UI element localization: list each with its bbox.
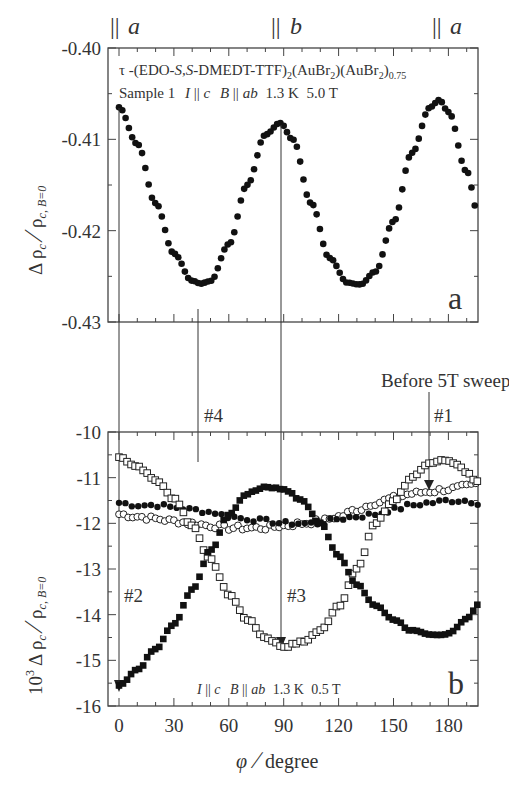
data-point	[165, 240, 172, 247]
data-point	[474, 502, 480, 508]
data-point	[462, 498, 468, 504]
data-point	[276, 520, 282, 526]
x-tick-label: 180	[434, 715, 463, 736]
data-point	[436, 497, 442, 503]
parallel-b-bars: ||	[271, 13, 281, 39]
data-point	[212, 542, 219, 549]
y-tick-label: -11	[76, 468, 101, 489]
data-point	[155, 203, 162, 210]
data-point	[192, 525, 199, 532]
data-point	[234, 213, 241, 220]
data-point	[346, 514, 352, 520]
data-point	[180, 602, 187, 609]
data-point	[145, 181, 152, 188]
data-point	[154, 504, 160, 510]
data-point	[257, 515, 263, 521]
data-point	[218, 511, 224, 517]
x-axis-label: φ∕degree	[236, 747, 319, 773]
x-tick-label: 90	[274, 715, 293, 736]
data-point	[404, 501, 410, 507]
data-point	[284, 129, 291, 136]
parallel-a-right-bars: ||	[432, 13, 442, 39]
data-point	[129, 503, 135, 509]
y-tick-label: -13	[76, 559, 101, 580]
data-point	[228, 239, 235, 246]
data-point	[439, 99, 446, 106]
data-point	[122, 500, 128, 506]
data-point	[357, 583, 364, 590]
data-point	[220, 584, 227, 591]
panel-a-y-tick-labels: -0.40-0.41-0.42-0.43	[61, 38, 101, 333]
data-point	[376, 263, 383, 270]
data-point	[244, 517, 250, 523]
panel-b-x-tick-labels: 0306090120150180	[114, 715, 462, 736]
data-point	[139, 150, 146, 157]
data-point	[238, 197, 245, 204]
data-point	[465, 170, 472, 177]
data-point	[310, 202, 317, 209]
panel-a-conditions: Sample 1 I || c B || ab 1.3 K 5.0 T	[119, 85, 338, 101]
data-point	[289, 522, 295, 528]
data-point	[126, 125, 133, 132]
data-point	[442, 497, 448, 503]
data-point	[386, 225, 393, 232]
data-point	[412, 146, 419, 153]
data-point	[327, 515, 333, 521]
data-point	[295, 521, 301, 527]
data-point	[236, 607, 243, 614]
data-point	[452, 125, 459, 132]
data-point	[336, 269, 343, 276]
data-point	[251, 166, 258, 173]
data-point	[334, 516, 340, 522]
data-point	[290, 136, 297, 143]
parallel-a-right-letter: a	[450, 13, 462, 39]
y-tick-label: -12	[76, 513, 101, 534]
y-tick-label: -16	[76, 696, 101, 717]
data-point	[300, 176, 307, 183]
annotation-before-5t-sweep: Before 5T sweep	[381, 370, 509, 391]
data-point	[193, 506, 199, 512]
data-point	[263, 516, 269, 522]
data-point	[455, 142, 462, 149]
panel-b-y-tick-labels: -10-11-12-13-14-15-16	[76, 422, 102, 717]
data-point	[160, 636, 167, 643]
data-point	[419, 123, 426, 130]
data-point	[329, 609, 336, 616]
data-point	[377, 515, 384, 522]
data-point	[321, 624, 328, 631]
panel-b-y-axis-label: 103Δ ρc∕ρc, B=0	[19, 577, 49, 695]
data-point	[309, 511, 316, 518]
data-point	[250, 518, 256, 524]
data-point	[249, 618, 256, 625]
data-point	[205, 509, 211, 515]
data-point	[231, 229, 238, 236]
data-point	[449, 499, 455, 505]
data-point	[156, 644, 163, 651]
data-point	[302, 520, 308, 526]
panel-b: -10-11-12-13-14-15-16 0306090120150180 B…	[19, 370, 509, 773]
data-point	[270, 520, 276, 526]
y-tick-label: -15	[76, 650, 101, 671]
data-point	[393, 496, 400, 503]
panel-b-conditions: I || c B || ab 1.3 K 0.5 T	[196, 682, 341, 697]
data-point	[237, 515, 243, 521]
data-point	[212, 511, 218, 517]
data-point	[199, 510, 205, 516]
data-point	[468, 500, 474, 506]
data-point	[321, 523, 328, 530]
x-tick-label: 0	[114, 715, 124, 736]
data-point	[247, 177, 254, 184]
data-point	[160, 483, 167, 490]
annotation-3: #3	[287, 585, 306, 606]
data-point	[320, 241, 327, 248]
data-point	[325, 618, 332, 625]
data-point	[303, 191, 310, 198]
data-point	[337, 602, 344, 609]
data-point	[167, 504, 173, 510]
data-point	[178, 260, 185, 267]
data-point	[305, 504, 312, 511]
data-point	[474, 601, 481, 608]
x-tick-label: 60	[219, 715, 238, 736]
data-point	[129, 134, 136, 141]
y-tick-label: -0.41	[61, 129, 101, 150]
